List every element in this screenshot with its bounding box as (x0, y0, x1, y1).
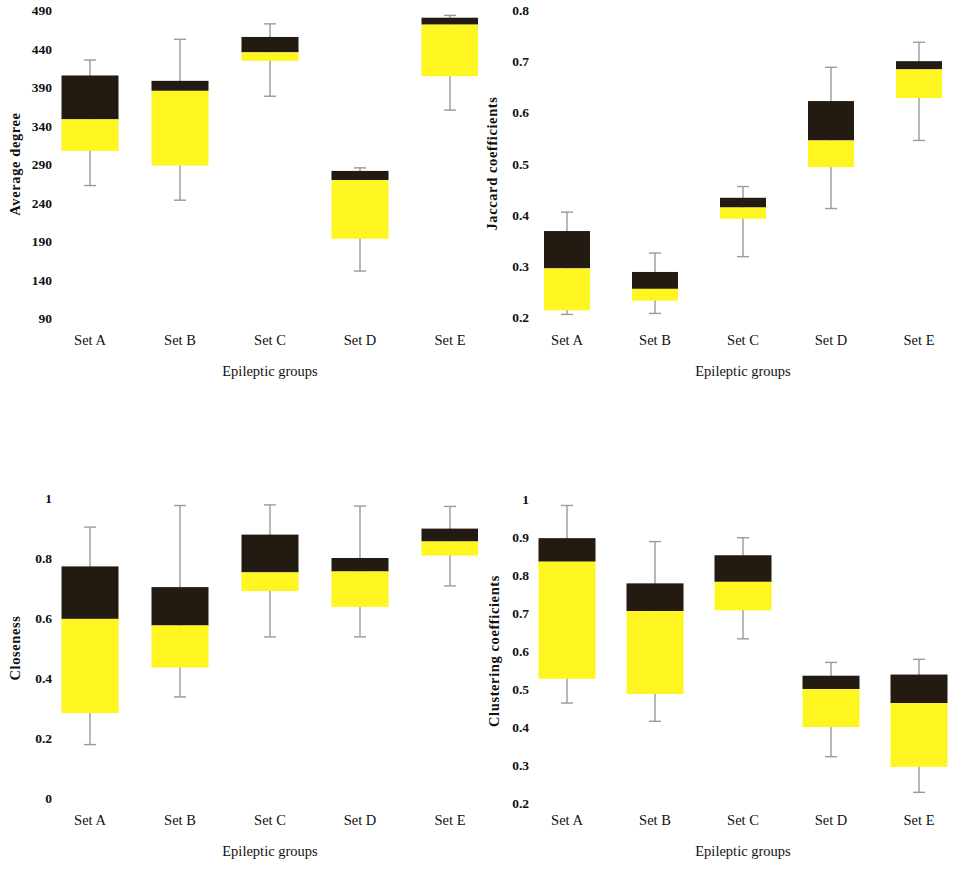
ytick-label: 0.5 (512, 157, 529, 172)
boxes-average-degree (62, 15, 479, 271)
xtick-label-set-a: Set A (74, 332, 106, 348)
boxplot-set-e[interactable] (422, 15, 479, 110)
xtick-label-set-d: Set D (344, 332, 377, 348)
box-upper-quartile (332, 171, 389, 180)
xtick-label-set-b: Set B (639, 812, 671, 828)
boxplot-set-a[interactable] (62, 527, 119, 745)
ytick-label: 340 (32, 119, 53, 134)
box-lower-quartile (62, 119, 119, 151)
box-upper-quartile (715, 555, 772, 582)
ytick-label: 0.6 (512, 105, 529, 120)
ytick-label: 0.6 (512, 644, 529, 659)
box-lower-quartile (896, 69, 942, 98)
boxes-jaccard-coefficients (544, 42, 942, 314)
x-axis-clustering-coefficients: Set ASet BSet CSet DSet EEpileptic group… (551, 812, 935, 859)
boxplot-set-a[interactable] (62, 60, 119, 186)
box-lower-quartile (62, 619, 119, 713)
y-axis-jaccard-coefficients: 0.80.70.60.50.40.30.2Jaccard coefficient… (484, 3, 529, 325)
box-lower-quartile (242, 52, 299, 60)
xtick-label-set-b: Set B (164, 332, 196, 348)
ytick-label: 440 (32, 42, 53, 57)
box-upper-quartile (62, 566, 119, 619)
box-lower-quartile (803, 689, 860, 727)
ytick-label: 0.2 (35, 731, 52, 746)
box-upper-quartile (242, 37, 299, 52)
xtick-label-set-c: Set C (254, 812, 286, 828)
x-axis-title: Epileptic groups (695, 363, 791, 379)
xtick-label-set-b: Set B (164, 812, 196, 828)
box-lower-quartile (422, 25, 479, 77)
boxplot-set-b[interactable] (632, 253, 678, 313)
ytick-label: 0.7 (512, 606, 529, 621)
boxplot-set-c[interactable] (715, 538, 772, 639)
boxplot-set-c[interactable] (720, 187, 766, 257)
boxplot-set-d[interactable] (332, 168, 389, 271)
boxplot-figure: 49044039034029024019014090Average degree… (0, 0, 955, 880)
ytick-label: 490 (32, 3, 53, 18)
boxplot-set-e[interactable] (891, 659, 948, 792)
xtick-label-set-c: Set C (727, 812, 759, 828)
ytick-label: 0.3 (512, 758, 529, 773)
ytick-label: 0.6 (35, 611, 52, 626)
ytick-label: 290 (32, 157, 53, 172)
boxplot-set-a[interactable] (539, 505, 596, 703)
boxes-closeness (62, 505, 479, 745)
box-upper-quartile (152, 587, 209, 625)
y-axis-average-degree: 49044039034029024019014090Average degree (7, 3, 52, 326)
ytick-label: 0.2 (512, 310, 529, 325)
panel-jaccard-coefficients: 0.80.70.60.50.40.30.2Jaccard coefficient… (477, 0, 955, 440)
xtick-label-set-e: Set E (903, 812, 934, 828)
boxplot-set-b[interactable] (627, 542, 684, 722)
ytick-label: 1 (522, 492, 529, 507)
box-upper-quartile (62, 75, 119, 119)
boxplot-set-e[interactable] (896, 42, 942, 140)
ytick-label: 0.9 (512, 530, 529, 545)
box-lower-quartile (632, 289, 678, 301)
ytick-label: 1 (45, 491, 52, 506)
ytick-label: 0.8 (35, 551, 52, 566)
box-upper-quartile (242, 535, 299, 573)
xtick-label-set-e: Set E (434, 332, 465, 348)
boxplot-set-e[interactable] (422, 506, 479, 586)
ytick-label: 140 (32, 273, 53, 288)
xtick-label-set-b: Set B (639, 332, 671, 348)
boxplot-set-a[interactable] (544, 212, 590, 314)
panel-average-degree: 49044039034029024019014090Average degree… (0, 0, 478, 440)
ytick-label: 0.7 (512, 54, 529, 69)
box-lower-quartile (808, 140, 854, 167)
box-upper-quartile (891, 675, 948, 704)
xtick-label-set-a: Set A (551, 332, 583, 348)
average-degree-plot: 49044039034029024019014090Average degree… (0, 0, 478, 440)
y-axis-title: Closeness (7, 615, 23, 680)
closeness-plot: 10.80.60.40.20Closeness Set ASet BSet CS… (0, 440, 478, 880)
box-lower-quartile (422, 542, 479, 556)
boxplot-set-b[interactable] (152, 39, 209, 200)
boxes-clustering-coefficients (539, 505, 948, 792)
boxplot-set-d[interactable] (803, 662, 860, 756)
x-axis-title: Epileptic groups (222, 363, 318, 379)
boxplot-set-c[interactable] (242, 505, 299, 637)
y-axis-clustering-coefficients: 10.90.80.70.60.50.40.30.2Clustering coef… (486, 492, 529, 811)
ytick-label: 0.2 (512, 796, 529, 811)
ytick-label: 0.3 (512, 259, 529, 274)
boxplot-set-d[interactable] (808, 67, 854, 208)
boxplot-set-d[interactable] (332, 506, 389, 637)
jaccard-coefficients-plot: 0.80.70.60.50.40.30.2Jaccard coefficient… (477, 0, 955, 440)
box-lower-quartile (539, 562, 596, 679)
clustering-coefficients-plot: 10.90.80.70.60.50.40.30.2Clustering coef… (477, 440, 955, 880)
ytick-label: 0.4 (512, 208, 529, 223)
x-axis-title: Epileptic groups (222, 843, 318, 859)
xtick-label-set-a: Set A (74, 812, 106, 828)
x-axis-average-degree: Set ASet BSet CSet DSet EEpileptic group… (74, 332, 466, 379)
box-upper-quartile (152, 81, 209, 91)
box-upper-quartile (808, 101, 854, 140)
box-upper-quartile (422, 529, 479, 542)
ytick-label: 0.4 (35, 671, 52, 686)
boxplot-set-c[interactable] (242, 24, 299, 96)
xtick-label-set-d: Set D (344, 812, 377, 828)
xtick-label-set-e: Set E (903, 332, 934, 348)
box-lower-quartile (720, 208, 766, 219)
panel-closeness: 10.80.60.40.20Closeness Set ASet BSet CS… (0, 440, 478, 880)
boxplot-set-b[interactable] (152, 506, 209, 697)
xtick-label-set-d: Set D (815, 332, 848, 348)
